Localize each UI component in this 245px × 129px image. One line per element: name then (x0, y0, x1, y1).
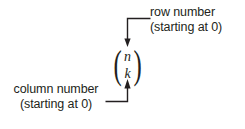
k-symbol: k (124, 65, 130, 82)
binomial-coefficient-diagram: ( n k ) row number (starting at 0) colum… (0, 0, 245, 129)
row-number-annotation-line1: row number (150, 5, 222, 20)
row-number-leader-path (128, 19, 151, 42)
binomial-coefficient-formula: ( n k ) (110, 46, 145, 84)
n-symbol: n (124, 48, 131, 65)
left-parenthesis: ( (113, 49, 121, 82)
column-number-leader-path (106, 88, 128, 102)
column-number-annotation-line2: (starting at 0) (6, 97, 106, 112)
nk-stack: n k (124, 48, 131, 82)
row-number-annotation: row number (starting at 0) (150, 5, 222, 35)
column-number-annotation-line1: column number (6, 82, 106, 97)
column-number-annotation: column number (starting at 0) (6, 82, 106, 112)
right-parenthesis: ) (134, 49, 142, 82)
row-number-annotation-line2: (starting at 0) (150, 20, 222, 35)
